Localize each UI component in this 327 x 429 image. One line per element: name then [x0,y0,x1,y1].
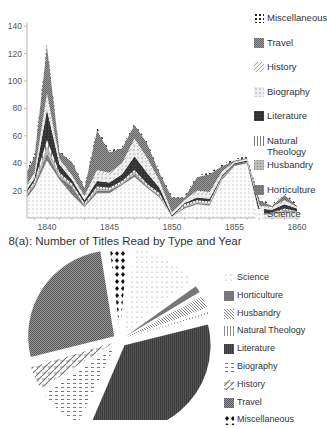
pie-slice-travel [28,251,114,357]
legend-label: Husbandry [237,308,281,319]
legend-item-travel: Travel [254,37,327,62]
legend-swatch-icon [254,136,264,146]
y-tick-label: 100 [8,76,22,86]
legend-swatch-icon [224,273,234,283]
legend-swatch-icon [224,326,234,336]
legend-item-natural-theology: NaturalTheology [254,135,327,160]
legend-label: Travel [237,397,262,408]
legend-item-travel: Travel [224,397,305,415]
legend-swatch-icon [224,380,234,390]
pie-slice-literature [91,325,211,420]
legend-label: Natural Theology [237,325,305,336]
legend-swatch-icon [254,87,264,97]
y-tick-label: 140 [8,21,22,31]
legend-label: Horticulture [237,290,283,301]
y-tick-label: 20 [13,186,23,196]
legend-item-miscellaneous: Miscellaneous [254,12,327,37]
legend-swatch-icon [224,362,234,372]
legend-swatch-icon [254,160,264,170]
y-tick-label: 60 [13,131,23,141]
legend-swatch-icon [254,62,264,72]
legend-label: Miscellaneous [237,414,294,425]
legend-item-history: History [254,61,327,86]
legend-swatch-icon [224,398,234,408]
legend-label: Biography [267,86,310,97]
chart-caption: 8(a): Number of Titles Read by Type and … [0,235,250,247]
legend-label: Science [237,272,269,283]
legend-item-literature: Literature [254,110,327,135]
legend-label: Miscellaneous [267,12,327,23]
legend-swatch-icon [224,415,234,425]
legend-item-biography: Biography [254,86,327,111]
pie-chart-legend: ScienceHorticultureHusbandryNatural Theo… [224,272,305,429]
legend-item-horticulture: Horticulture [254,184,327,209]
legend-item-history: History [224,379,305,397]
legend-item-science: Science [224,272,305,290]
pie-slices [28,250,210,420]
legend-swatch-icon [224,344,234,354]
x-tick-label: 1855 [225,222,244,232]
y-axis: 20406080100120140 [8,21,27,218]
x-tick-label: 1845 [100,222,119,232]
legend-swatch-icon [254,209,264,219]
legend-swatch-icon [254,13,264,23]
legend-swatch-icon [254,185,264,195]
legend-item-literature: Literature [224,343,305,361]
y-tick-label: 40 [13,158,23,168]
area-chart-legend: MiscellaneousTravelHistoryBiographyLiter… [254,12,327,233]
legend-label: History [237,379,265,390]
legend-label: Horticulture [267,184,316,195]
legend-label: Biography [237,361,278,372]
y-tick-label: 120 [8,49,22,59]
x-tick-label: 1850 [163,222,182,232]
pie-chart [0,250,230,420]
legend-item-biography: Biography [224,361,305,379]
legend-item-husbandry: Husbandry [254,159,327,184]
legend-swatch-icon [254,111,264,121]
legend-item-natural-theology: Natural Theology [224,325,305,343]
legend-label: Literature [267,110,307,121]
legend-label: Travel [267,37,293,48]
pie-slice-miscellaneous [110,250,128,333]
y-tick-label: 80 [13,103,23,113]
legend-item-horticulture: Horticulture [224,290,305,308]
x-tick-label: 1840 [38,222,57,232]
legend-swatch-icon [254,38,264,48]
legend-label: Literature [237,343,275,354]
legend-swatch-icon [224,291,234,301]
legend-item-husbandry: Husbandry [224,308,305,326]
legend-swatch-icon [224,309,234,319]
legend-item-miscellaneous: Miscellaneous [224,414,305,429]
legend-label: Science [267,208,301,219]
legend-label: History [267,61,297,72]
legend-label: NaturalTheology [267,135,306,157]
legend-item-science: Science [254,208,327,233]
legend-label: Husbandry [267,159,313,170]
